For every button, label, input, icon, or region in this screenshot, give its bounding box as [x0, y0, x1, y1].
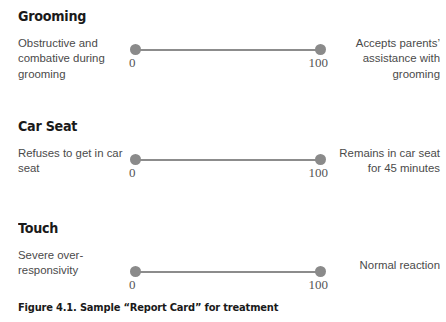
scale-right-anchor-label: Normal reaction — [332, 258, 440, 273]
scale-track — [135, 271, 321, 273]
section-heading: Grooming — [18, 8, 86, 24]
scale-min-handle-dot-icon[interactable] — [130, 44, 141, 55]
scale-max-handle-dot-icon[interactable] — [315, 154, 326, 165]
scale-left-anchor-label: Severe over-responsivity — [18, 248, 130, 279]
scale-min-value: 0 — [129, 55, 136, 70]
scale-right-anchor-label: Remains in car seat for 45 minutes — [332, 146, 440, 177]
scale-right-anchor-label: Accepts parents’ assistance with groomin… — [332, 36, 440, 82]
scale-track — [135, 159, 321, 161]
report-card-figure: Grooming Obstructive and combative durin… — [0, 0, 446, 322]
scale-max-value: 100 — [309, 165, 329, 180]
scale-min-value: 0 — [129, 165, 136, 180]
rating-scale[interactable]: 0 100 — [130, 154, 326, 180]
scale-max-value: 100 — [309, 55, 329, 70]
scale-max-handle-dot-icon[interactable] — [315, 266, 326, 277]
section-heading: Touch — [18, 220, 58, 236]
rating-scale[interactable]: 0 100 — [130, 266, 326, 292]
figure-caption: Figure 4.1. Sample “Report Card” for tre… — [18, 301, 278, 314]
rating-scale[interactable]: 0 100 — [130, 44, 326, 70]
scale-max-handle-dot-icon[interactable] — [315, 44, 326, 55]
scale-min-handle-dot-icon[interactable] — [130, 266, 141, 277]
scale-min-handle-dot-icon[interactable] — [130, 154, 141, 165]
section-heading: Car Seat — [18, 118, 77, 134]
scale-max-value: 100 — [309, 277, 329, 292]
scale-left-anchor-label: Refuses to get in car seat — [18, 146, 130, 177]
scale-track — [135, 49, 321, 51]
scale-min-value: 0 — [129, 277, 136, 292]
scale-left-anchor-label: Obstructive and combative during groomin… — [18, 36, 130, 82]
